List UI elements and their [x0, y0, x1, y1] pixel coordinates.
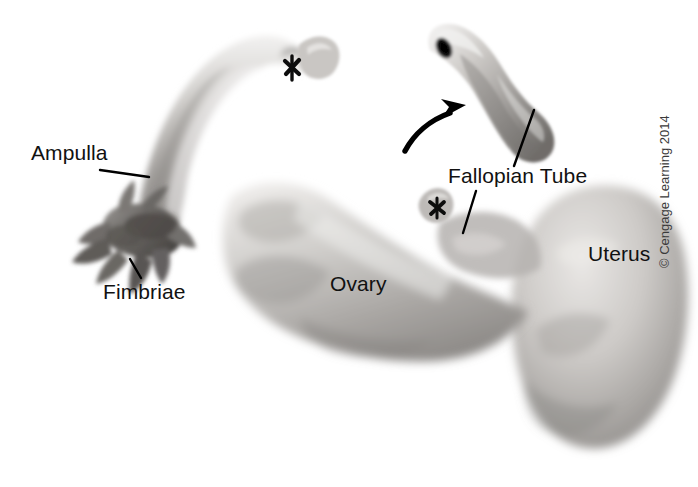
pointer-arrow	[405, 99, 466, 151]
fallopian-tube-inset-shape	[428, 24, 554, 163]
copyright-notice: © Cengage Learning 2014	[658, 48, 671, 268]
label-ovary: Ovary	[330, 273, 387, 294]
tube-cut-stub-upper	[298, 37, 340, 79]
label-uterus: Uterus	[588, 243, 650, 264]
label-ampulla: Ampulla	[31, 142, 108, 163]
label-fallopian-tube: Fallopian Tube	[448, 165, 587, 186]
label-fimbriae: Fimbriae	[103, 281, 185, 302]
anatomy-figure: Ampulla Fimbriae Ovary Fallopian Tube Ut…	[0, 0, 698, 487]
leader-line-ampulla	[100, 170, 149, 177]
ovary-uterus-junction	[438, 212, 541, 278]
